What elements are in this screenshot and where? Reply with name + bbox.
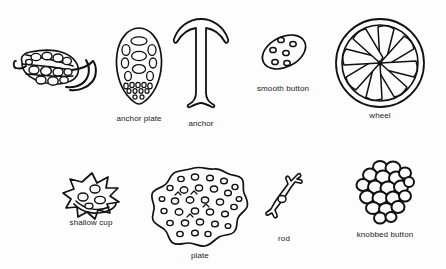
caption-anchor-plate: anchor plate <box>116 114 161 123</box>
caption-wheel: wheel <box>369 111 390 120</box>
caption-smooth-button: smooth button <box>257 84 309 93</box>
figure-shallow-cup <box>62 171 122 221</box>
caption-plate: plate <box>191 251 209 260</box>
figure-knobbed-button <box>356 160 414 226</box>
rod-drawing <box>266 174 302 218</box>
caption-shallow-cup: shallow cup <box>70 218 113 227</box>
wheel-drawing <box>336 19 424 107</box>
shallow-cup-drawing <box>63 173 119 219</box>
smooth-button-drawing <box>257 28 312 76</box>
figure-anchor <box>172 15 230 111</box>
anchor-drawing <box>174 19 229 107</box>
figure-anchor-plate <box>113 25 165 109</box>
ossicle-plate: anchor plate anchor smooth button wheel … <box>0 0 446 269</box>
figure-anchor-with-plate <box>10 33 102 97</box>
caption-knobbed-button: knobbed button <box>357 230 414 239</box>
figure-rod <box>265 172 305 230</box>
caption-anchor: anchor <box>188 119 213 128</box>
figure-wheel <box>334 17 426 109</box>
anchor-plate-drawing <box>116 28 161 104</box>
plate-drawing <box>152 167 248 246</box>
knobbed-button-drawing <box>357 161 415 224</box>
figure-plate <box>150 166 250 250</box>
caption-rod: rod <box>278 234 290 243</box>
figure-smooth-button <box>258 28 310 76</box>
anchor-with-plate-drawing <box>14 50 96 90</box>
